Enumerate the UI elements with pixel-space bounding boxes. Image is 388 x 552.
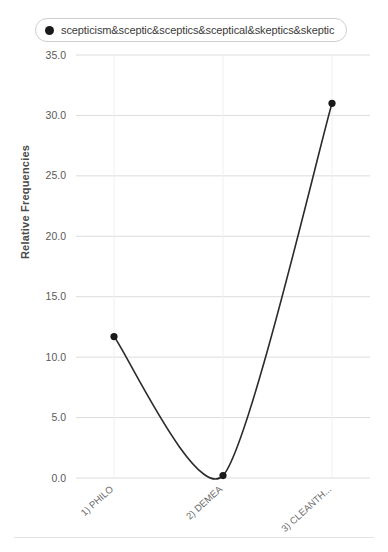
x-axis-tick-labels: 1) PHILO2) DEMEA3) CLEANTH...: [79, 483, 334, 534]
y-axis-tick-label: 35.0: [46, 49, 67, 61]
y-axis-tick-label: 30.0: [46, 109, 67, 121]
x-axis-tick-label: 3) CLEANTH...: [279, 483, 333, 534]
y-axis-tick-labels: 0.05.010.015.020.025.030.035.0: [46, 49, 67, 484]
y-axis-tick-label: 0.0: [51, 472, 66, 484]
y-axis-tick-label: 20.0: [46, 230, 67, 242]
footer-divider: [14, 537, 374, 538]
y-axis-tick-label: 25.0: [46, 169, 67, 181]
data-point-marker[interactable]: [219, 472, 226, 479]
y-axis-tick-label: 15.0: [46, 290, 67, 302]
x-axis-tick-label: 1) PHILO: [79, 483, 116, 518]
y-axis-tick-label: 5.0: [51, 411, 66, 423]
category-gridlines: [114, 55, 332, 478]
x-axis-tick-label: 2) DEMEA: [184, 483, 225, 522]
y-axis-tick-label: 10.0: [46, 351, 67, 363]
data-point-marker[interactable]: [110, 333, 117, 340]
data-point-marker[interactable]: [328, 100, 335, 107]
plot-area: 0.05.010.015.020.025.030.035.0 1) PHILO2…: [0, 0, 388, 552]
chart-container: scepticism&sceptic&sceptics&sceptical&sk…: [0, 0, 388, 552]
